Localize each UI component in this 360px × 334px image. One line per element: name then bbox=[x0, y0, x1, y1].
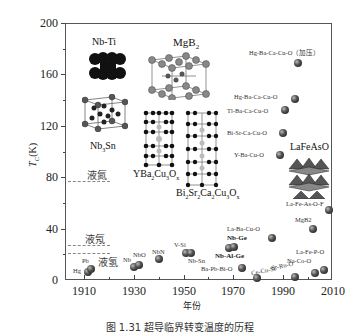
label-ybacuo: Y-Ba-Cu-O bbox=[234, 151, 264, 158]
lafeaso-structure-icon bbox=[287, 155, 331, 199]
x-tick-1910: 1910 bbox=[64, 284, 104, 299]
x-tick-mark bbox=[233, 275, 234, 280]
point-lafeasof bbox=[325, 206, 333, 214]
nbti-structure-icon bbox=[88, 52, 128, 82]
liquid-neon-label: 液氖 bbox=[85, 231, 105, 246]
label-bscco: Bi2Sr2Ca2Cu3Ox bbox=[176, 187, 239, 200]
point-nbsn bbox=[187, 249, 195, 257]
liquid-hydrogen-label: 液氢 bbox=[98, 254, 118, 269]
x-axis-title: 年份 bbox=[183, 299, 201, 312]
mgb2-main: MgB bbox=[173, 36, 196, 48]
label-lafeaso: LaFeAsO bbox=[290, 141, 329, 152]
nb3sn-b: Sn bbox=[105, 140, 116, 151]
point-nbn bbox=[155, 255, 163, 263]
y-tick-160: 160 bbox=[28, 67, 58, 82]
label-ybco: YBa2Cu3Ox bbox=[133, 168, 179, 181]
y-title-main: T bbox=[27, 162, 38, 168]
label-tlbacacuo: Tl-Ba-Ca-Cu-O bbox=[227, 107, 268, 114]
label-nbalge: Nb-Al-Ge bbox=[215, 252, 244, 260]
x-tick-mark bbox=[208, 277, 209, 280]
label-nbti: Nb-Ti bbox=[92, 36, 116, 47]
label-mgb2: MgB2 bbox=[295, 216, 312, 223]
x-tick-mark bbox=[84, 275, 85, 280]
mgb2-sub: 2 bbox=[196, 43, 200, 51]
point-bisrcacuo bbox=[279, 129, 287, 137]
ybco-sub: x bbox=[176, 175, 179, 181]
y-tick-120: 120 bbox=[28, 119, 58, 134]
x-tick-mark bbox=[283, 275, 284, 280]
bscco-part: Ca bbox=[200, 187, 211, 198]
label-hgbacacuo-pressure: Hg-Ba-Ca-Cu-O（加压） bbox=[249, 47, 320, 57]
nb3sn-a: Nb bbox=[90, 140, 102, 151]
point-srruo bbox=[291, 273, 299, 281]
bscco-part: Cu bbox=[214, 187, 226, 198]
y-title-unit: (K) bbox=[27, 143, 38, 157]
label-vsi: V-Si bbox=[174, 241, 186, 248]
x-tick-mark bbox=[109, 277, 110, 280]
point-bapbbio bbox=[238, 264, 246, 272]
label-hg: Hg bbox=[73, 267, 81, 274]
label-pb: Pb bbox=[82, 257, 89, 264]
label-nbge: Nb-Ge bbox=[227, 234, 247, 242]
y-axis-title: TC(K) bbox=[27, 135, 41, 175]
point-ybacuo bbox=[276, 151, 284, 159]
ybco-part: YBa bbox=[133, 168, 151, 179]
x-tick-mark bbox=[134, 275, 135, 280]
label-nbsn: Nb-Sn bbox=[188, 257, 205, 264]
label-mgb2-structure: MgB2 bbox=[173, 36, 199, 51]
label-nbn: NbN bbox=[152, 248, 165, 255]
x-tick-2010: 2010 bbox=[313, 284, 353, 299]
x-tick-1970: 1970 bbox=[213, 284, 253, 299]
label-lafeasof: La-Fe-As-O-F bbox=[286, 200, 324, 207]
label-nacoo: Na-Co-O bbox=[287, 257, 311, 264]
label-bisrcacuo: Bi-Sr-Ca-Cu-O bbox=[227, 129, 267, 136]
label-nb: Nb bbox=[123, 256, 131, 263]
point-tlbacacuo bbox=[281, 106, 289, 114]
x-tick-mark bbox=[159, 277, 160, 280]
point-hgbacacuo bbox=[291, 95, 299, 103]
ybco-part: Cu bbox=[154, 168, 166, 179]
y-tick-200: 200 bbox=[28, 16, 58, 31]
point-nacoo bbox=[311, 269, 319, 277]
nb3sn-structure-icon bbox=[82, 94, 128, 132]
y-title-sub: C bbox=[33, 157, 41, 162]
mgb2-structure-icon bbox=[148, 52, 210, 100]
point-nbge bbox=[230, 243, 238, 251]
label-lafepo: La-Fe-P-O bbox=[296, 248, 324, 255]
x-tick-1950: 1950 bbox=[164, 284, 204, 299]
liquid-nitrogen-label: 液氮 bbox=[87, 167, 107, 182]
x-tick-mark bbox=[308, 277, 309, 280]
point-nbo bbox=[135, 261, 143, 269]
y-tick-0: 0 bbox=[28, 273, 58, 288]
point-labacuo bbox=[268, 234, 276, 242]
y-tick-40: 40 bbox=[28, 222, 58, 237]
bscco-sub: x bbox=[236, 194, 239, 200]
x-tick-1990: 1990 bbox=[263, 284, 303, 299]
point-lafepo bbox=[320, 266, 328, 274]
label-hgbacacuo: Hg-Ba-Ca-Cu-O bbox=[234, 93, 277, 100]
bscco-structure-icon bbox=[185, 110, 219, 188]
ybco-structure-icon bbox=[143, 110, 175, 168]
point-mgb2 bbox=[309, 225, 317, 233]
point-pb bbox=[87, 265, 95, 273]
label-nb3sn: Nb3Sn bbox=[90, 140, 116, 153]
x-tick-mark bbox=[184, 275, 185, 280]
label-bapbbio: Ba-Pb-Bi-O bbox=[201, 265, 232, 272]
point-hgbacacuo-pressure bbox=[294, 59, 302, 67]
figure-caption: 图 1.31 超导临界转变温度的历程 bbox=[70, 319, 290, 334]
label-labacuo: La-Ba-Cu-O bbox=[227, 225, 260, 232]
label-nbo: NbO bbox=[133, 251, 146, 258]
x-tick-1930: 1930 bbox=[114, 284, 154, 299]
